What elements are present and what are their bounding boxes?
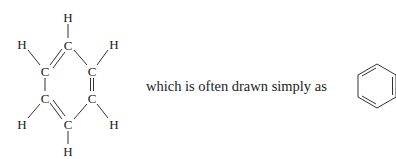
atom-c5: C	[88, 91, 97, 106]
atom-c2: C	[41, 64, 50, 79]
atom-h4: H	[17, 117, 26, 132]
bond-c1-c2-b	[53, 52, 65, 68]
atom-c3: C	[88, 64, 97, 79]
bond-c4-c6-a	[50, 103, 62, 119]
atom-h3: H	[109, 37, 118, 52]
bond-c1-c2-a	[50, 49, 62, 65]
atom-h5: H	[109, 117, 118, 132]
bond-c1-c3	[74, 50, 87, 65]
atom-c1: C	[64, 38, 73, 53]
bond-c3-h3	[97, 50, 108, 65]
bond-c5-c6	[74, 104, 87, 119]
atom-c6: C	[64, 117, 73, 132]
caption-text: which is often drawn simply as	[146, 78, 327, 94]
atom-h1: H	[63, 10, 72, 25]
atom-h6: H	[63, 144, 72, 159]
atom-h2: H	[17, 37, 26, 52]
bond-c4-c6-b	[53, 100, 65, 116]
benzene-hexagon-icon	[358, 64, 396, 108]
bond-c5-h5	[97, 104, 108, 118]
atom-c4: C	[41, 91, 50, 106]
kekule-structure: H C H C H C C H C H C H	[17, 10, 118, 159]
bond-c2-h2	[28, 50, 40, 65]
bond-c4-h4	[28, 104, 40, 118]
hexagon-outline	[358, 64, 396, 108]
